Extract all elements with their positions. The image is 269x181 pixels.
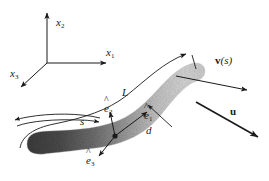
axis-label-x3: x3: [10, 68, 18, 79]
frame-label-e2: e2: [104, 103, 112, 114]
arclength-label: s: [80, 116, 84, 127]
velocity-label: v(s): [215, 55, 232, 66]
frame-label-e1: e1: [144, 110, 152, 121]
diameter-label: d: [146, 125, 152, 136]
background-flow-label: u: [230, 106, 236, 117]
axis-x3-line: [21, 63, 47, 87]
axis-label-x1: x1: [106, 47, 114, 58]
arclength-indicator: [15, 114, 100, 126]
background-flow-vector: [196, 102, 258, 137]
axis-label-x2: x2: [56, 17, 64, 28]
background-flow-line: [196, 102, 258, 137]
length-label: L: [122, 87, 128, 98]
frame-label-e3: e3: [86, 155, 94, 166]
figure-canvas: [0, 0, 269, 181]
